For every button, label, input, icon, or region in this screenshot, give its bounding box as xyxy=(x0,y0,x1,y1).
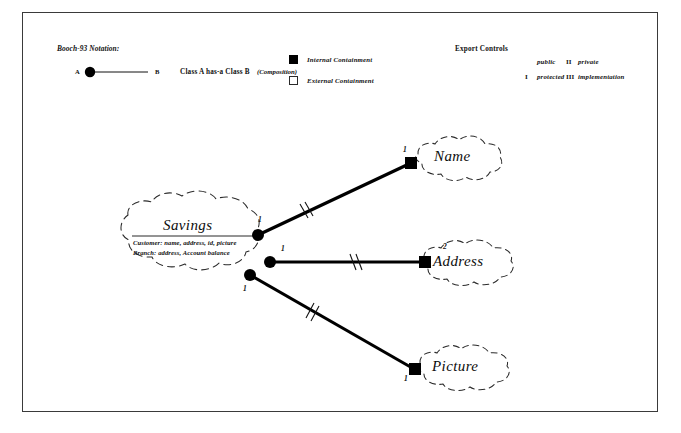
internal-containment-swatch-icon xyxy=(289,55,298,64)
export-mark-implementation: III xyxy=(566,74,574,81)
export-controls-heading: Export Controls xyxy=(455,46,508,53)
class-label-picture: Picture xyxy=(432,359,478,374)
multiplicity-savings-name-target: 1 xyxy=(403,146,407,154)
export-label-implementation: implementation xyxy=(578,74,625,81)
multiplicity-savings-name-source: 1 xyxy=(258,216,262,224)
diagram-canvas: Booch-93 Notation: A B Class A has-a Cla… xyxy=(0,0,681,433)
savings-attribute-customer: Customer: name, address, id, picture xyxy=(133,240,236,247)
internal-containment-label: Internal Containment xyxy=(307,57,372,64)
diagram-frame xyxy=(22,12,658,412)
export-label-protected: protected xyxy=(537,74,564,81)
export-mark-private: II xyxy=(566,59,571,66)
multiplicity-savings-address-target: 2 xyxy=(443,243,447,251)
multiplicity-savings-picture-target: 1 xyxy=(404,375,408,383)
class-label-address: Address xyxy=(433,254,484,269)
external-containment-swatch-icon xyxy=(289,76,298,85)
legend-relation-kind: (Composition) xyxy=(257,69,297,76)
class-label-savings: Savings xyxy=(163,218,212,233)
export-label-public: public xyxy=(537,59,556,66)
legend-relation-phrase: Class A has-a Class B xyxy=(180,69,250,76)
legend-endpoint-a: A xyxy=(75,69,80,76)
class-label-name: Name xyxy=(434,149,471,164)
export-mark-protected: I xyxy=(525,74,528,81)
legend-endpoint-b: B xyxy=(155,69,159,76)
multiplicity-savings-picture-source: 1 xyxy=(243,285,247,293)
external-containment-label: External Containment xyxy=(307,78,374,85)
legend-heading: Booch-93 Notation: xyxy=(57,45,119,52)
multiplicity-savings-address-source: 1 xyxy=(281,245,285,253)
savings-attribute-branch: Branch: address, Account balance xyxy=(133,250,230,257)
export-label-private: private xyxy=(578,59,599,66)
